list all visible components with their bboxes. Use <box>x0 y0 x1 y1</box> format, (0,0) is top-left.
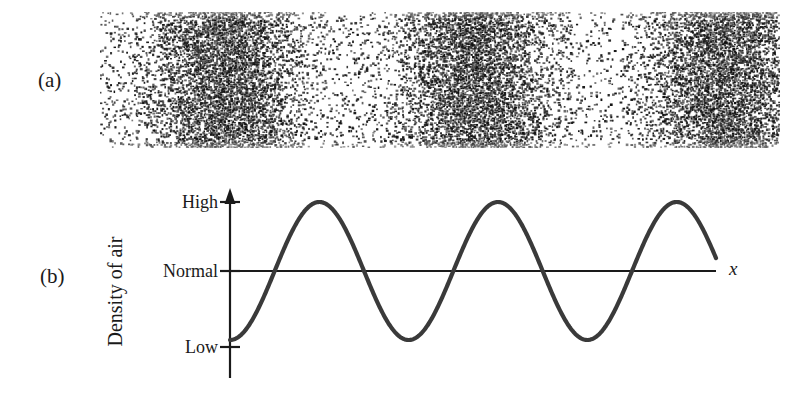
sound-wave-figure: (a) (b) Density of air High Normal Low x <box>0 0 808 406</box>
panel-label-a: (a) <box>38 68 61 93</box>
density-waveform-plot: Density of air High Normal Low x <box>0 170 808 406</box>
waveform-svg <box>0 170 808 406</box>
air-molecule-dot-canvas <box>100 12 780 148</box>
density-dot-field <box>100 12 780 148</box>
